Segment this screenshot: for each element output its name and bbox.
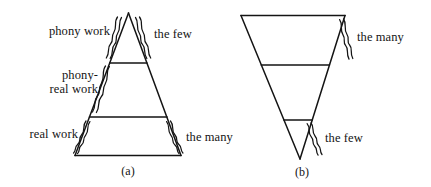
- label-b-the-many: the many: [357, 31, 429, 44]
- label-a-the-few: the few: [154, 28, 214, 41]
- brace-b-right-bottom: [307, 123, 322, 155]
- caption-panel-b: (b): [272, 165, 332, 180]
- label-a-real-work: real work: [2, 128, 78, 141]
- label-a-phony-real-work: phony- real work: [2, 69, 98, 96]
- label-a-the-many: the many: [186, 131, 246, 144]
- label-a-phony-work: phony work: [6, 25, 110, 38]
- caption-panel-a: (a): [98, 164, 158, 179]
- figure-canvas: phony work phony- real work real work th…: [0, 0, 431, 187]
- brace-b-right-top: [340, 19, 353, 59]
- triangle-b-left-edge: [241, 16, 300, 160]
- label-b-the-few: the few: [325, 132, 391, 145]
